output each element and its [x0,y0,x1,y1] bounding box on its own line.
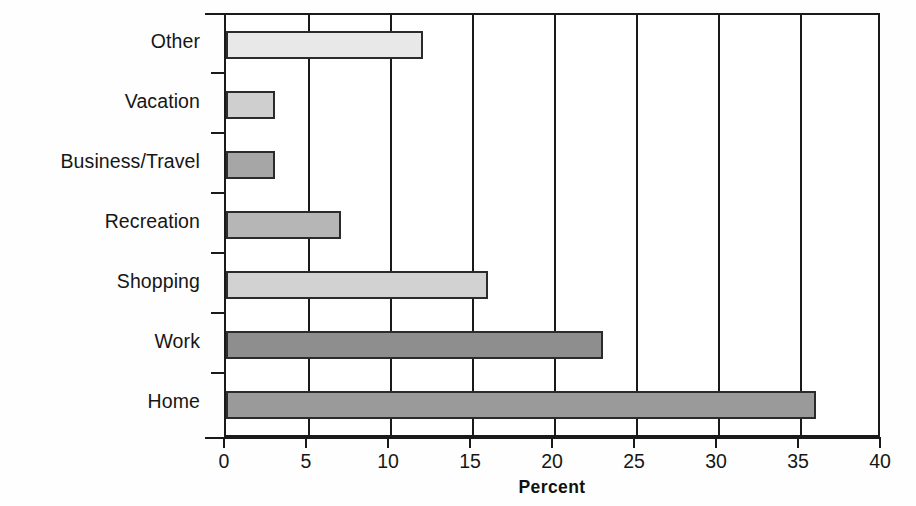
y-axis-tick-top [205,13,224,15]
gridline-35 [800,15,802,435]
x-axis-tick-label-15: 15 [440,450,500,473]
y-axis-label-work: Work [4,330,200,353]
x-axis-tick-20 [551,437,553,448]
x-axis-tick-label-25: 25 [604,450,664,473]
y-axis-labels: Other Vacation Business/Travel Recreatio… [0,0,200,506]
bar-recreation [226,211,341,239]
plot-area [224,13,880,437]
bar-other [226,31,423,59]
x-axis-tick-25 [633,437,635,448]
y-axis-tick-5 [211,312,224,314]
y-axis-label-business-travel: Business/Travel [4,150,200,173]
x-axis-tick-10 [387,437,389,448]
bar-home [226,391,816,419]
y-axis-label-vacation: Vacation [4,90,200,113]
x-axis-tick-label-35: 35 [768,450,828,473]
x-axis-tick-35 [797,437,799,448]
y-axis-label-other: Other [4,30,200,53]
y-axis-label-home: Home [4,390,200,413]
chart-figure: Other Vacation Business/Travel Recreatio… [0,0,916,506]
x-axis-tick-label-0: 0 [194,450,254,473]
gridline-25 [636,15,638,435]
bar-work [226,331,603,359]
y-axis-tick-bottom [205,437,224,439]
y-axis-label-recreation: Recreation [4,210,200,233]
y-axis-tick-1 [211,72,224,74]
bar-business-travel [226,151,275,179]
x-axis-tick-label-5: 5 [276,450,336,473]
gridline-20 [554,15,556,435]
x-axis-tick-label-40: 40 [850,450,910,473]
y-axis-label-shopping: Shopping [4,270,200,293]
y-axis-tick-2 [211,132,224,134]
gridline-30 [718,15,720,435]
gridline-15 [472,15,474,435]
gridline-10 [390,15,392,435]
x-axis-title: Percent [224,477,880,498]
x-axis-tick-5 [305,437,307,448]
x-axis-tick-label-30: 30 [686,450,746,473]
bar-vacation [226,91,275,119]
x-axis-tick-40 [879,437,881,448]
y-axis-tick-4 [211,252,224,254]
bar-shopping [226,271,488,299]
x-axis-tick-30 [715,437,717,448]
y-axis-tick-6 [211,372,224,374]
x-axis-tick-label-10: 10 [358,450,418,473]
x-axis-tick-label-20: 20 [522,450,582,473]
y-axis-tick-3 [211,192,224,194]
x-axis-tick-15 [469,437,471,448]
